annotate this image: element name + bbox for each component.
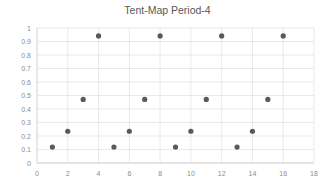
x-tick-label: 10 bbox=[187, 170, 195, 177]
data-point bbox=[219, 33, 224, 38]
y-tick-label: 0.6 bbox=[21, 79, 31, 86]
y-tick-label: 0.4 bbox=[21, 106, 31, 113]
data-point bbox=[281, 33, 286, 38]
data-point bbox=[96, 33, 101, 38]
y-tick-label: 1 bbox=[27, 25, 31, 32]
x-tick-label: 14 bbox=[249, 170, 257, 177]
x-tick-label: 12 bbox=[218, 170, 226, 177]
x-tick-label: 2 bbox=[66, 170, 70, 177]
x-tick-label: 8 bbox=[158, 170, 162, 177]
data-point bbox=[65, 129, 70, 134]
data-point bbox=[250, 129, 255, 134]
y-tick-label: 0.8 bbox=[21, 52, 31, 59]
data-point bbox=[173, 144, 178, 149]
data-point bbox=[265, 97, 270, 102]
data-point bbox=[127, 129, 132, 134]
y-tick-label: 0.2 bbox=[21, 133, 31, 140]
x-tick-label: 6 bbox=[127, 170, 131, 177]
data-point bbox=[81, 97, 86, 102]
data-point bbox=[188, 129, 193, 134]
data-point bbox=[158, 33, 163, 38]
y-tick-label: 0.7 bbox=[21, 65, 31, 72]
x-tick-label: 16 bbox=[279, 170, 287, 177]
data-point bbox=[111, 144, 116, 149]
y-tick-label: 0.1 bbox=[21, 146, 31, 153]
data-point bbox=[50, 144, 55, 149]
x-tick-label: 0 bbox=[35, 170, 39, 177]
y-tick-label: 0.5 bbox=[21, 92, 31, 99]
data-point bbox=[204, 97, 209, 102]
y-tick-label: 0 bbox=[27, 160, 31, 167]
x-tick-label: 18 bbox=[310, 170, 318, 177]
data-point bbox=[142, 97, 147, 102]
scatter-plot: 00.10.20.30.40.50.60.70.80.9102468101214… bbox=[0, 0, 335, 191]
y-tick-label: 0.9 bbox=[21, 38, 31, 45]
data-point bbox=[234, 144, 239, 149]
x-tick-label: 4 bbox=[97, 170, 101, 177]
y-tick-label: 0.3 bbox=[21, 119, 31, 126]
